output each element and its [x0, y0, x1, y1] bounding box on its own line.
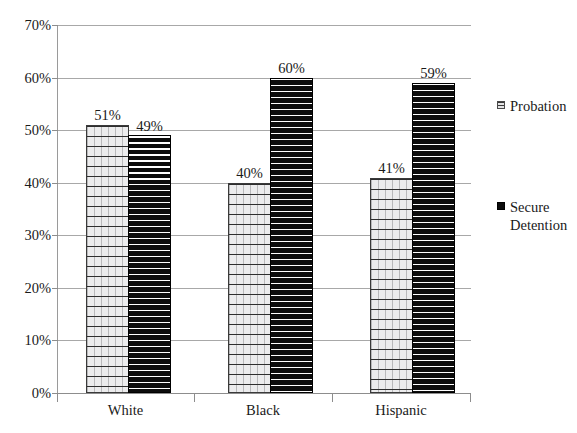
- y-axis-label-40: 40%: [24, 176, 51, 191]
- y-axis-label-30: 30%: [24, 228, 51, 243]
- bar-black-secure-detention: [270, 78, 313, 393]
- legend-item-probation: Probation: [497, 97, 566, 115]
- legend-label-secure-detention: Secure Detention: [510, 198, 567, 234]
- legend-swatch-probation-icon: [497, 101, 505, 109]
- y-tick-20: [52, 288, 58, 289]
- x-tick-end: [470, 393, 471, 402]
- bar-hispanic-probation: [370, 178, 413, 394]
- x-axis-label-white: White: [57, 403, 194, 418]
- value-label-white-secure-detention: 49%: [128, 119, 171, 134]
- y-axis-label-0: 0%: [32, 386, 51, 401]
- gridline-60: [58, 78, 471, 79]
- y-axis-label-60: 60%: [24, 71, 51, 86]
- legend-label-probation: Probation: [510, 97, 566, 115]
- value-label-black-probation: 40%: [228, 166, 271, 181]
- plot-area: 51% 49% 40% 60% 41% 59%: [57, 25, 470, 393]
- value-label-hispanic-secure-detention: 59%: [412, 66, 455, 81]
- y-axis-label-20: 20%: [24, 281, 51, 296]
- bar-white-secure-detention: [128, 135, 171, 393]
- value-label-hispanic-probation: 41%: [370, 161, 413, 176]
- y-axis-label-70: 70%: [24, 18, 51, 33]
- gridline-70: [58, 25, 471, 26]
- legend-swatch-secure-detention-icon: [497, 202, 505, 210]
- gridline-0: [58, 393, 471, 394]
- y-tick-10: [52, 340, 58, 341]
- value-label-black-secure-detention: 60%: [270, 61, 313, 76]
- value-label-white-probation: 51%: [86, 108, 129, 123]
- x-tick-start: [57, 393, 58, 402]
- y-tick-70: [52, 25, 58, 26]
- legend-item-secure-detention: Secure Detention: [497, 198, 567, 234]
- x-axis-label-black: Black: [194, 403, 332, 418]
- y-tick-30: [52, 235, 58, 236]
- bar-black-probation: [228, 183, 271, 393]
- y-axis-label-50: 50%: [24, 123, 51, 138]
- bar-white-probation: [86, 125, 129, 393]
- y-tick-40: [52, 183, 58, 184]
- bar-hispanic-secure-detention: [412, 83, 455, 393]
- bar-chart: 70% 60% 50% 40% 30% 20% 10% 0%: [0, 0, 577, 433]
- x-tick-white-black: [194, 393, 195, 402]
- y-axis-label-10: 10%: [24, 333, 51, 348]
- y-axis-labels: 70% 60% 50% 40% 30% 20% 10% 0%: [0, 0, 51, 433]
- y-tick-60: [52, 78, 58, 79]
- x-tick-black-hispanic: [332, 393, 333, 402]
- y-tick-50: [52, 130, 58, 131]
- x-axis-label-hispanic: Hispanic: [332, 403, 470, 418]
